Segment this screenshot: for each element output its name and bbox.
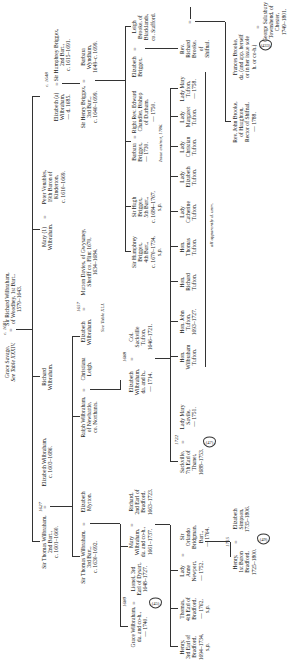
person-elizabeth-mytton: Elizabeth Mytton. bbox=[80, 491, 92, 512]
person-barbara-briggex: Barbara Briggex, — 1730. bbox=[131, 142, 150, 162]
person-elizabeth-wilbraham-davies: Elizabeth Wilbraham. bbox=[80, 319, 92, 345]
marriage-date: 1680 bbox=[122, 597, 127, 607]
person-thomas-4th-earl-bradford: Thomas, 4th Earl of Bradford, — 1762, s.… bbox=[179, 597, 210, 621]
marriage-sign: = bbox=[81, 522, 87, 525]
descent-line bbox=[95, 80, 125, 81]
drop-line bbox=[72, 416, 80, 417]
drop-line bbox=[170, 116, 178, 117]
drop-line bbox=[170, 281, 178, 282]
person-elizabeth-wilbraham: Elizabeth Wilbraham, c. 1603–1686. bbox=[41, 438, 53, 487]
person-lady-margaret-tufton: Lady Margaret Tufton. bbox=[179, 107, 198, 127]
group-brace bbox=[205, 72, 206, 367]
drop-line bbox=[170, 646, 178, 647]
drop-line bbox=[170, 211, 178, 212]
person-sackville-7th-earl-thanet: Sackville, 7th Earl of Thanet, 1688–1753… bbox=[179, 449, 204, 476]
descent-line bbox=[155, 524, 170, 525]
person-mary-wilbraham: Mary (1) Wilbraham. bbox=[41, 224, 53, 250]
marriage-sign: = bbox=[131, 601, 137, 604]
drop-line bbox=[120, 546, 128, 547]
person-lady-catherine-tufton: Lady Catherine Tufton. bbox=[179, 201, 198, 223]
person-mary-wilbraham-bradford: Mary Wilbraham, da. and co-h., 1661–1737… bbox=[128, 527, 153, 557]
marriage-sign: = bbox=[129, 357, 135, 360]
person-sir-thomas-wilbraham-3rd: Sir Thomas Wilbraham, 3rd Bart., c. 1630… bbox=[80, 530, 99, 583]
person-lady-mary-savile: Lady Mary Savile, — 1751. bbox=[179, 404, 198, 429]
person-george-salusbury-townshend: George Salusbury Townshend, of Chester, … bbox=[262, 2, 287, 42]
drop-line bbox=[170, 570, 178, 571]
marriage-date: 1755 bbox=[225, 537, 230, 547]
person-sir-humphrey-briggex-4th: Sir Humphrey Briggex, 4th Bart., c. 1670… bbox=[131, 236, 162, 268]
sibling-bar bbox=[32, 97, 33, 542]
descent-line bbox=[50, 506, 72, 507]
marriage-sign: = bbox=[54, 82, 60, 85]
person-lionel-earl-of-dysart: Lionel, 3rd Earl of Dysart, 1648–1727. bbox=[130, 562, 149, 595]
sibling-bar bbox=[72, 337, 73, 507]
person-elizabeth-briggex: Elizabeth Briggex. bbox=[131, 56, 143, 77]
drop-line bbox=[170, 356, 178, 357]
descent-line bbox=[195, 21, 225, 22]
sibling-bar bbox=[72, 507, 73, 557]
person-hon-thomas-tufton: Hon. Thomas Tufton. bbox=[179, 238, 198, 256]
reference-marker: (433) bbox=[259, 40, 272, 51]
marriage-sign: = bbox=[233, 540, 239, 543]
sibling-bar bbox=[120, 524, 121, 627]
person-elizabeth-simpson: Elizabeth Simpson, 1735–1806. bbox=[232, 506, 251, 533]
person-hon-wilbraham-tufton: Hon. Wilbraham Tufton. bbox=[179, 345, 198, 370]
person-christiana-leigh: Christiana Leigh. bbox=[80, 358, 92, 381]
sibling-bar bbox=[170, 525, 171, 647]
marriage-date: 1722 bbox=[174, 435, 179, 445]
person-rev-john-brooke: Rev. John Brooke, of Haughton, Rector of… bbox=[232, 101, 257, 142]
person-grace-wilbraham: Grace Wilbraham, da. and co-h., — 1740. bbox=[130, 607, 149, 648]
drop-line bbox=[32, 376, 40, 377]
person-lady-anne-newport: Lady Anne Newport, — 1752. bbox=[179, 561, 204, 582]
person-grace-savage: Grace Savage, See Table XXXIV. bbox=[4, 343, 16, 382]
person-ralph-wilbraham: Ralph Wilbraham, of Newbattle, co. North… bbox=[80, 397, 99, 438]
person-sir-henry-briggex: Sir Henry Briggex, 3rd Bart., c. 1640–16… bbox=[80, 86, 99, 129]
reference-marker: (45) bbox=[149, 598, 162, 609]
marriage-sign: = bbox=[81, 307, 87, 310]
person-henry-1st-baron-bradford: Henry, 1st Baron Bradford, 1725–1800. bbox=[232, 549, 257, 576]
person-hon-john-tufton: Hon. John Tufton, 1693–1727. bbox=[179, 309, 198, 336]
marriage-sign: = bbox=[8, 328, 14, 331]
descent-line bbox=[90, 389, 120, 390]
sibling-bar bbox=[170, 117, 171, 462]
drop-line bbox=[170, 146, 178, 147]
person-barbara-wyndham: Barbara Wyndham, 1649–c. 1699. bbox=[80, 41, 99, 73]
sibling-bar bbox=[225, 22, 226, 122]
person-henry-3rd-earl-bradford: Henry, 3rd Earl of Bradford, 1694–1734, … bbox=[179, 634, 210, 661]
person-mutton-davies: Mutton Davies, of Gwysaney, Sheriff co. … bbox=[80, 229, 99, 296]
person-bishop-edward-chandler: Right Rev. Edward Chandler, Bishop of Du… bbox=[131, 91, 156, 134]
drop-line bbox=[225, 121, 231, 122]
person-hon-richard-tufton: Hon. Richard Tufton. bbox=[179, 273, 198, 291]
person-richard-2nd-earl-bradford: Richard, 2nd Earl of Bradford, 1663–1723… bbox=[128, 489, 153, 516]
person-sir-humphrey-briggex-2nd: Sir Humphrey Briggex, 2nd Bart., c. 1615… bbox=[53, 29, 72, 82]
descent-line bbox=[145, 48, 178, 49]
person-sir-orlando-bridgman: Sir Orlando Bridgman, Bart., — 1764. bbox=[179, 525, 210, 549]
marriage-date: c. 1648 bbox=[44, 72, 49, 87]
drop-line bbox=[32, 96, 40, 97]
marriage-sign: = bbox=[129, 523, 135, 526]
drop-line bbox=[170, 246, 178, 247]
marriage-sign: = bbox=[180, 553, 186, 556]
person-elizabeth-wilbraham-tufton: Elizabeth Wilbraham, da. and h., — 1714. bbox=[128, 369, 153, 395]
marriage-sign: = bbox=[132, 47, 138, 50]
descent-line bbox=[155, 358, 170, 359]
drop-line bbox=[170, 321, 178, 322]
marriage-sign: = bbox=[81, 388, 87, 391]
person-sir-richard-wilbraham: Sir Richard Wilbraham, of Woodhey, 1st B… bbox=[4, 272, 23, 325]
person-col-sackville-tufton: Col. Sackville Tufton, 1646–1721. bbox=[128, 324, 153, 351]
marriage-sign: = bbox=[42, 215, 48, 218]
drop-line bbox=[72, 556, 80, 557]
sibling-bar bbox=[120, 380, 121, 390]
person-lady-mary-tufton: Lady Mary Tufton, — 1758. bbox=[179, 76, 198, 101]
issue-extinct-note: Issue extinct, 1786. bbox=[158, 123, 163, 162]
person-richard-wilbraham: Richard Wilbraham. bbox=[41, 364, 53, 390]
person-sir-thomas-wilbraham-2nd: Sir Thomas Wilbraham, 2nd Bart., c. 1601… bbox=[41, 515, 60, 568]
marriage-sign: = bbox=[180, 440, 186, 443]
spouse-line bbox=[190, 7, 191, 19]
drop-line bbox=[120, 626, 128, 627]
person-frances-brooke: Frances Brooke, da. (and app. herself or… bbox=[232, 34, 257, 80]
descent-line bbox=[90, 523, 120, 524]
marriage-sign: = bbox=[132, 135, 138, 138]
drop-line bbox=[72, 336, 80, 337]
marriage-sign: = bbox=[42, 505, 48, 508]
